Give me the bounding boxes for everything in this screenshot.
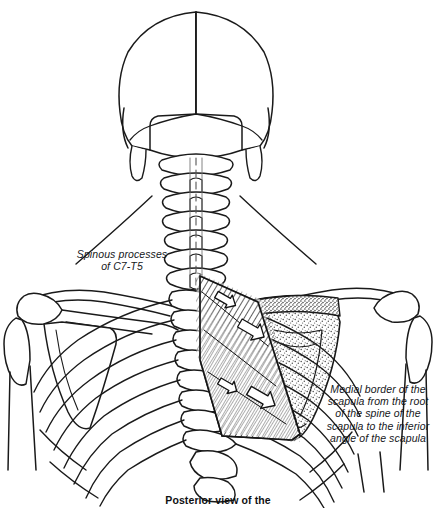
figure-caption: Posterior view of the — [0, 494, 436, 506]
label-spinous-processes: Spinous processes of C7-T5 — [52, 248, 192, 272]
label-medial-border: Medial border of the scapula from the ro… — [322, 383, 434, 444]
